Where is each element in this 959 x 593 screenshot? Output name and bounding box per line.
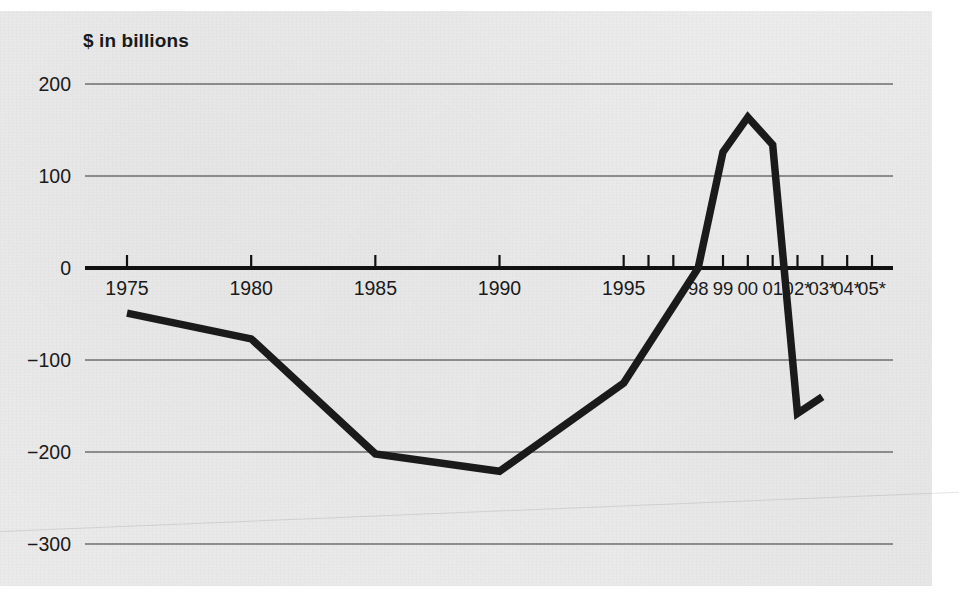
x-tick-label: 01	[762, 278, 783, 299]
x-tick-label: 1985	[354, 277, 398, 299]
x-tick-label: 1990	[478, 277, 522, 299]
x-tick-label: 00	[738, 278, 759, 299]
x-tick-label-group: 197519801985199019959899000102*03*04*05*	[105, 277, 886, 299]
y-tick-label: 200	[38, 73, 71, 95]
x-tick-mark-group	[127, 255, 872, 267]
y-tick-label-group: 2001000−100−200−300	[27, 73, 71, 555]
x-tick-label: 04*	[833, 278, 861, 299]
x-tick-label: 1975	[105, 277, 149, 299]
y-tick-label: 0	[60, 257, 71, 279]
x-tick-label: 03*	[808, 278, 836, 299]
x-tick-label: 05*	[858, 278, 886, 299]
x-tick-label: 02*	[784, 278, 812, 299]
y-tick-label: −200	[27, 441, 71, 463]
x-tick-label: 98	[688, 278, 709, 299]
y-tick-label: −100	[27, 349, 71, 371]
x-tick-label: 1995	[602, 277, 646, 299]
x-tick-label: 1980	[229, 277, 273, 299]
x-tick-label: 99	[713, 278, 734, 299]
y-tick-label: −300	[27, 533, 71, 555]
y-tick-label: 100	[38, 165, 71, 187]
